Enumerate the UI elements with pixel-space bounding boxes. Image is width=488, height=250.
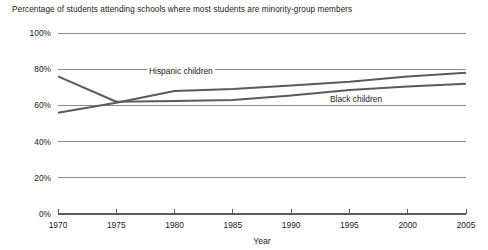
series-label-black: Black children (328, 94, 384, 104)
series-label-hispanic: Hispanic children (147, 66, 215, 76)
x-axis-tick-label: 1990 (282, 220, 301, 230)
y-axis-tick-label: 40% (34, 137, 51, 147)
chart-plot-area: 0%20%40%60%80%100% 197019751980198519901… (0, 0, 488, 250)
x-axis-tick-label: 2005 (457, 220, 476, 230)
x-axis-title: Year (253, 236, 271, 246)
series-line-black-children (58, 76, 466, 101)
y-axis-tick-label: 100% (30, 28, 52, 38)
x-axis-tick-label: 1970 (49, 220, 68, 230)
gridlines (58, 33, 466, 214)
y-axis-tick-label: 60% (34, 100, 51, 110)
x-axis-tick-label: 1975 (107, 220, 126, 230)
x-axis: 19701975198019851990199520002005 (49, 209, 476, 230)
y-axis-tick-label: 80% (34, 64, 51, 74)
y-axis-tick-label: 0% (39, 209, 52, 219)
x-axis-tick-label: 2000 (398, 220, 417, 230)
x-axis-tick-label: 1995 (340, 220, 359, 230)
chart-container: Percentage of students attending schools… (0, 0, 488, 250)
x-axis-tick-label: 1980 (165, 220, 184, 230)
data-series (58, 73, 466, 113)
series-line-hispanic-children (58, 73, 466, 113)
y-axis-ticks: 0%20%40%60%80%100% (30, 28, 52, 219)
y-axis-tick-label: 20% (34, 173, 51, 183)
x-axis-tick-label: 1985 (224, 220, 243, 230)
